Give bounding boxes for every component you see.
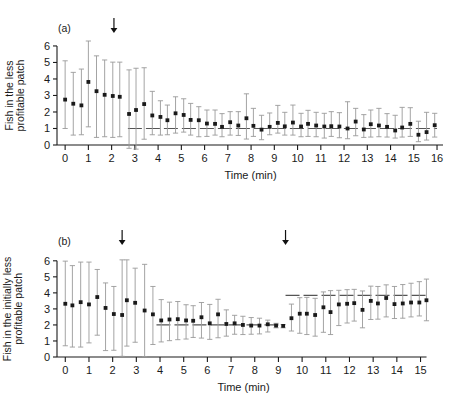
data-point-marker bbox=[393, 129, 397, 133]
data-point-marker bbox=[401, 302, 405, 306]
data-point-marker bbox=[233, 321, 237, 325]
data-point-marker bbox=[337, 303, 341, 307]
figure-container: 0123456012345678910111213141516(a)Time (… bbox=[0, 0, 464, 405]
y-tick-label: 0 bbox=[44, 351, 50, 363]
data-point-marker bbox=[205, 122, 209, 126]
data-point-marker bbox=[184, 319, 188, 323]
data-point-marker bbox=[417, 133, 421, 137]
y-tick-label: 0 bbox=[44, 139, 50, 151]
data-point-marker bbox=[338, 125, 342, 129]
data-point-marker bbox=[362, 128, 366, 132]
data-point-marker bbox=[276, 121, 280, 125]
data-point-marker bbox=[268, 125, 272, 129]
data-point-marker bbox=[133, 301, 137, 305]
data-point-marker bbox=[95, 295, 99, 299]
data-point-marker bbox=[125, 298, 129, 302]
data-point-marker bbox=[369, 122, 373, 126]
data-point-marker bbox=[150, 114, 154, 118]
data-point-marker bbox=[354, 120, 358, 124]
data-point-marker bbox=[63, 302, 67, 306]
data-point-marker bbox=[111, 94, 115, 98]
data-point-marker bbox=[322, 125, 326, 129]
y-axis-title-line2: profitable patch bbox=[12, 273, 24, 345]
data-point-marker bbox=[197, 118, 201, 122]
x-tick-label: 1 bbox=[85, 152, 91, 164]
x-tick-label: 13 bbox=[361, 152, 373, 164]
x-tick-label: 12 bbox=[338, 152, 350, 164]
data-point-marker bbox=[208, 321, 212, 325]
panel-a-plot: 0123456012345678910111213141516(a)Time (… bbox=[0, 0, 464, 200]
data-point-marker bbox=[95, 89, 99, 93]
data-point-marker bbox=[103, 93, 107, 97]
data-point-marker bbox=[322, 305, 326, 309]
data-point-marker bbox=[151, 312, 155, 316]
data-point-marker bbox=[79, 300, 83, 304]
y-tick-label: 4 bbox=[44, 287, 50, 299]
data-point-marker bbox=[120, 313, 124, 317]
x-tick-label: 16 bbox=[431, 152, 443, 164]
x-tick-label: 1 bbox=[86, 364, 92, 376]
data-point-marker bbox=[143, 309, 147, 313]
data-point-marker bbox=[174, 111, 178, 115]
data-point-marker bbox=[274, 324, 278, 328]
data-point-marker bbox=[361, 308, 365, 312]
data-point-marker bbox=[220, 125, 224, 129]
data-point-marker bbox=[409, 301, 413, 305]
y-tick-label: 5 bbox=[44, 271, 50, 283]
data-point-marker bbox=[159, 319, 163, 323]
data-point-marker bbox=[290, 316, 294, 320]
data-point-marker bbox=[71, 102, 75, 106]
data-point-marker bbox=[228, 120, 232, 124]
x-tick-label: 11 bbox=[320, 364, 331, 376]
treatment-arrow-head bbox=[119, 240, 126, 245]
data-point-marker bbox=[299, 125, 303, 129]
x-tick-label: 10 bbox=[291, 152, 303, 164]
y-tick-label: 4 bbox=[44, 73, 50, 85]
data-point-marker bbox=[80, 103, 84, 107]
x-tick-label: 0 bbox=[62, 152, 68, 164]
data-point-marker bbox=[236, 124, 240, 128]
data-point-marker bbox=[249, 324, 253, 328]
data-point-marker bbox=[376, 302, 380, 306]
x-tick-label: 10 bbox=[296, 364, 308, 376]
data-point-marker bbox=[346, 127, 350, 131]
data-point-marker bbox=[298, 312, 302, 316]
y-tick-label: 2 bbox=[44, 319, 50, 331]
data-point-marker bbox=[142, 102, 146, 106]
x-tick-label: 12 bbox=[343, 364, 355, 376]
x-tick-label: 2 bbox=[109, 152, 115, 164]
data-point-marker bbox=[216, 312, 220, 316]
x-tick-label: 8 bbox=[248, 152, 254, 164]
x-tick-label: 2 bbox=[110, 364, 116, 376]
x-axis-title: Time (min) bbox=[224, 169, 276, 181]
data-point-marker bbox=[385, 125, 389, 129]
y-tick-label: 6 bbox=[44, 40, 50, 52]
data-point-marker bbox=[213, 122, 217, 126]
data-point-marker bbox=[377, 124, 381, 128]
data-point-marker bbox=[176, 317, 180, 321]
x-tick-label: 9 bbox=[271, 152, 277, 164]
data-point-marker bbox=[266, 322, 270, 326]
data-point-marker bbox=[408, 122, 412, 126]
data-point-marker bbox=[258, 324, 262, 328]
x-tick-label: 7 bbox=[228, 364, 234, 376]
data-point-marker bbox=[306, 122, 310, 126]
x-tick-label: 5 bbox=[178, 152, 184, 164]
data-point-marker bbox=[200, 315, 204, 319]
panel-b: 01234560123456789101112131415(b)Time (mi… bbox=[0, 200, 464, 405]
x-tick-label: 9 bbox=[275, 364, 281, 376]
x-tick-label: 7 bbox=[225, 152, 231, 164]
x-tick-label: 3 bbox=[132, 152, 138, 164]
panel-b-plot: 01234560123456789101112131415(b)Time (mi… bbox=[0, 200, 464, 405]
x-axis-title: Time (min) bbox=[217, 381, 269, 393]
data-point-marker bbox=[352, 301, 356, 305]
data-point-marker bbox=[112, 312, 116, 316]
data-point-marker bbox=[159, 115, 163, 119]
panel-a: 0123456012345678910111213141516(a)Time (… bbox=[0, 0, 464, 200]
treatment-arrow-head bbox=[111, 28, 118, 33]
data-point-marker bbox=[417, 301, 421, 305]
data-point-marker bbox=[305, 312, 309, 316]
x-tick-label: 6 bbox=[204, 364, 210, 376]
y-tick-label: 6 bbox=[44, 255, 50, 267]
data-point-marker bbox=[168, 318, 172, 322]
